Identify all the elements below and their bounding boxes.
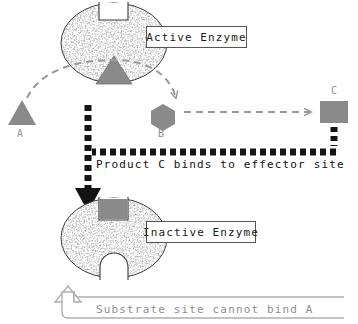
molecule-b <box>151 104 175 131</box>
molecule-a <box>8 100 36 125</box>
active-substrate-site <box>99 2 128 20</box>
inactive-effector-site <box>99 197 128 220</box>
product-c-binds-caption: Product C binds to effector site <box>96 158 345 171</box>
molecule-c <box>320 101 348 123</box>
substrate-cannot-bind-caption: Substrate site cannot bind A <box>96 303 314 316</box>
diagram-canvas: Active Enzyme Inactive Enzyme Product C … <box>0 0 358 324</box>
active-enzyme-label: Active Enzyme <box>146 26 247 48</box>
molecule-c-label: C <box>331 85 337 96</box>
molecule-b-label: B <box>158 128 164 139</box>
hollow-arrowhead <box>55 286 81 302</box>
inactive-enzyme-label: Inactive Enzyme <box>146 221 256 243</box>
inactive-substrate-site <box>100 253 128 280</box>
molecule-a-label: A <box>17 128 23 139</box>
